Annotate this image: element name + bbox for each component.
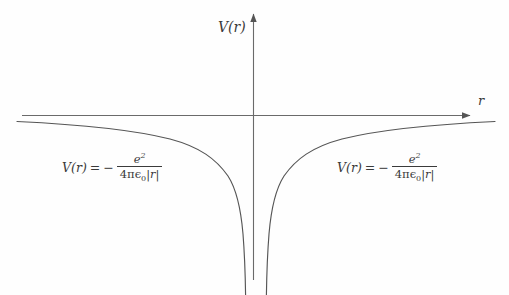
- formula-annotation-left: V(r) = − e2 4πϵ0|r|: [62, 152, 162, 184]
- vertical-axis-label: V(r): [218, 20, 246, 34]
- formula-left-fraction: e2 4πϵ0|r|: [117, 152, 163, 184]
- formula-left-denominator-radius: |r|: [146, 167, 159, 181]
- formula-left-denominator-coefficient: 4: [120, 167, 127, 181]
- formula-left-numerator-exponent: 2: [140, 151, 145, 160]
- formula-right-minus: −: [378, 162, 388, 175]
- formula-right-lhs: V(r): [337, 162, 362, 175]
- formula-right-denominator: 4πϵ0|r|: [392, 167, 438, 184]
- formula-right-fraction: e2 4πϵ0|r|: [392, 152, 438, 184]
- coulomb-potential-figure: V(r) r V(r) = − e2 4πϵ0|r| V(r) = − e2 4…: [0, 0, 509, 295]
- formula-right-numerator-exponent: 2: [415, 151, 420, 160]
- horizontal-axis-label: r: [478, 94, 484, 107]
- formula-right-numerator: e2: [405, 152, 425, 166]
- formula-left-numerator: e2: [130, 152, 150, 166]
- formula-right-equals: =: [365, 162, 375, 175]
- formula-annotation-right: V(r) = − e2 4πϵ0|r|: [337, 152, 437, 184]
- formula-left-denominator: 4πϵ0|r|: [117, 167, 163, 184]
- potential-curve-right-branch: [266, 122, 495, 295]
- formula-left-minus: −: [103, 162, 113, 175]
- plot-canvas: [0, 0, 509, 295]
- formula-right-denominator-coefficient: 4: [395, 167, 402, 181]
- potential-curve-left-branch: [17, 122, 246, 295]
- formula-left-denominator-pi: π: [127, 167, 135, 181]
- formula-right-denominator-radius: |r|: [421, 167, 434, 181]
- formula-right-denominator-pi: π: [402, 167, 410, 181]
- formula-left-lhs: V(r): [62, 162, 87, 175]
- formula-left-equals: =: [90, 162, 100, 175]
